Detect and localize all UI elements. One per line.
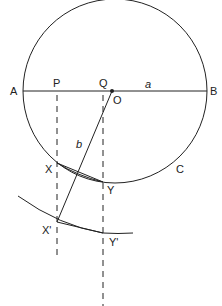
label-p: P	[53, 77, 60, 89]
label-b-length: b	[76, 138, 82, 150]
label-x: X	[45, 163, 53, 175]
label-x-prime: X'	[42, 224, 51, 236]
label-y: Y	[107, 184, 115, 196]
geometry-diagram: A B P Q O a b X Y C X' Y'	[0, 0, 222, 306]
label-b-point: B	[210, 85, 217, 97]
label-a-point: A	[10, 85, 18, 97]
label-q: Q	[99, 77, 108, 89]
label-a-length: a	[145, 78, 151, 90]
chord-xy	[57, 163, 103, 182]
label-c: C	[176, 163, 184, 175]
chord-x-prime-y-prime	[57, 222, 103, 233]
arc-lower	[18, 196, 133, 234]
line-b	[57, 91, 112, 222]
label-y-prime: Y'	[109, 236, 118, 248]
label-o: O	[113, 94, 122, 106]
